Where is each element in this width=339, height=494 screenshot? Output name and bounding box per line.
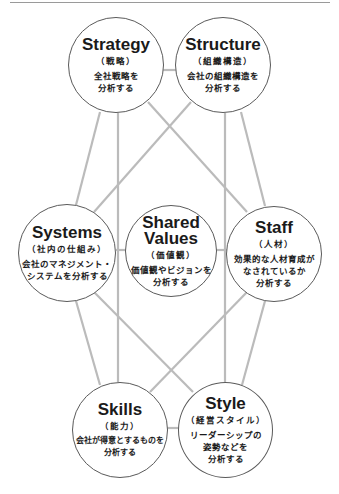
node-subtitle: （価値観） [146,249,196,261]
node-structure: Structure （組織構造） 会社の組織構造を 分析する [175,17,271,113]
node-title: Shared Values [142,215,200,247]
node-description: 価値観やビジョンを 分析する [131,264,212,288]
node-subtitle: （戦略） [96,55,136,67]
node-staff: Staff （人材） 効果的な人材育成が なされているか 分析する [226,206,322,302]
node-title: Structure [185,37,261,53]
node-shared-values: Shared Values （価値観） 価値観やビジョンを 分析する [125,205,217,297]
node-description: 効果的な人材育成が なされているか 分析する [234,253,315,289]
node-title: Skills [98,402,142,418]
node-subtitle: （能力） [100,420,140,432]
node-subtitle: （社内の仕組み） [27,243,107,255]
node-subtitle: （組織構造） [193,55,253,67]
node-title: Staff [255,220,293,236]
node-strategy: Strategy （戦略） 全社戦略を 分析する [68,17,164,113]
node-style: Style （経営スタイル） リーダーシップの 姿勢などを 分析する [178,382,273,478]
node-description: 会社のマネジメント・ システムを分析する [22,258,112,282]
node-title: Style [205,396,246,412]
node-description: リーダーシップの 姿勢などを 分析する [190,429,262,465]
node-description: 会社が得意とするものを 分析する [76,435,164,459]
node-subtitle: （経営スタイル） [186,414,266,426]
node-title: Systems [32,225,102,241]
node-skills: Skills （能力） 会社が得意とするものを 分析する [72,382,168,478]
node-title: Strategy [82,37,150,53]
node-description: 会社の組織構造を 分析する [187,70,259,94]
node-systems: Systems （社内の仕組み） 会社のマネジメント・ システムを分析する [18,204,116,302]
node-subtitle: （人材） [254,238,294,250]
node-description: 全社戦略を 分析する [94,70,139,94]
